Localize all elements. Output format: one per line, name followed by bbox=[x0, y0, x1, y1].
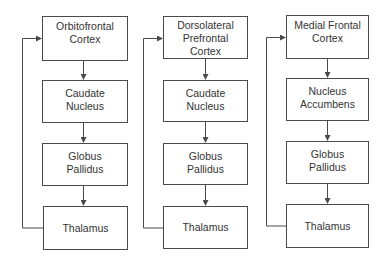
node-thalamus-2: Thalamus bbox=[163, 206, 248, 249]
node-thalamus-1: Thalamus bbox=[43, 206, 128, 250]
node-caudate-nucleus-2: Caudate Nucleus bbox=[163, 80, 248, 122]
feedback-c1 bbox=[23, 39, 44, 229]
feedback-c2 bbox=[144, 39, 164, 229]
node-orbitofrontal-cortex: Orbitofrontal Cortex bbox=[42, 16, 128, 61]
node-nucleus-accumbens: Nucleus Accumbens bbox=[286, 78, 369, 121]
node-globus-pallidus-2: Globus Pallidus bbox=[163, 143, 248, 185]
node-medial-frontal-cortex: Medial Frontal Cortex bbox=[286, 15, 369, 59]
node-globus-pallidus-3: Globus Pallidus bbox=[286, 141, 369, 184]
node-caudate-nucleus-1: Caudate Nucleus bbox=[42, 80, 128, 123]
node-dorsolateral-prefrontal-cortex: Dorsolateral Prefrontal Cortex bbox=[163, 16, 248, 59]
node-globus-pallidus-1: Globus Pallidus bbox=[42, 143, 128, 186]
feedback-c3 bbox=[267, 38, 287, 227]
node-thalamus-3: Thalamus bbox=[286, 204, 369, 248]
